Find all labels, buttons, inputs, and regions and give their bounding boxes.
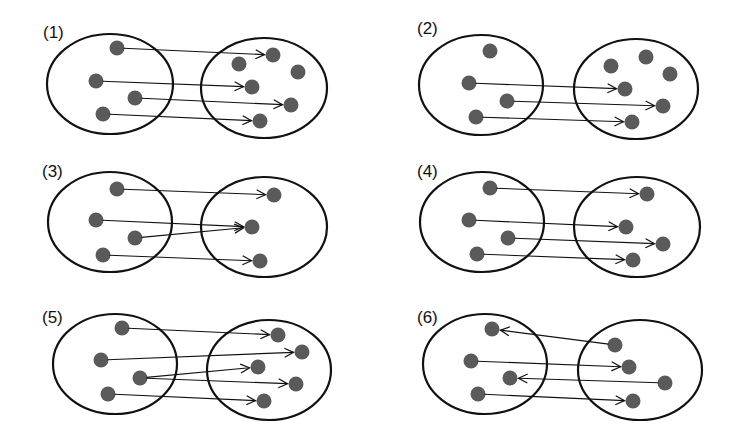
- codomain-element-dot: [253, 114, 268, 129]
- mapping-arrow: [477, 361, 620, 371]
- codomain-element-dot: [622, 360, 637, 375]
- domain-element-dot: [133, 371, 148, 386]
- domain-element-dot: [470, 247, 485, 262]
- codomain-element-dot: [656, 99, 671, 114]
- codomain-element-dot: [232, 57, 247, 72]
- codomain-element-dot: [639, 50, 654, 65]
- mapping-arrow: [482, 117, 623, 126]
- mapping-arrow: [500, 327, 608, 344]
- mapping-panel-6: (6): [417, 308, 702, 420]
- codomain-element-dot: [619, 220, 634, 235]
- codomain-element-dot: [257, 394, 272, 409]
- codomain-element-dot: [245, 80, 260, 95]
- mapping-arrow: [109, 255, 251, 265]
- mapping-panel-4: (4): [417, 162, 700, 277]
- mapping-arrow: [483, 254, 624, 264]
- codomain-element-dot: [291, 65, 306, 80]
- codomain-element-dot: [295, 345, 310, 360]
- mapping-arrow: [123, 189, 265, 199]
- domain-element-dot: [485, 322, 500, 337]
- domain-element-dot: [464, 354, 479, 369]
- domain-element-dot: [110, 182, 125, 197]
- domain-element-dot: [471, 387, 486, 402]
- codomain-element-dot: [626, 253, 641, 268]
- panel-label: (3): [42, 162, 63, 181]
- codomain-element-dot: [245, 220, 260, 235]
- domain-element-dot: [110, 41, 125, 56]
- domain-element-dot: [469, 110, 484, 125]
- mapping-arrow: [109, 114, 251, 124]
- mapping-arrow: [518, 374, 658, 383]
- codomain-element-dot: [604, 59, 619, 74]
- domain-element-dot: [483, 181, 498, 196]
- codomain-element-dot: [663, 67, 678, 82]
- mapping-diagrams-figure: (1)(2)(3)(4)(5)(6): [0, 0, 739, 441]
- panel-label: (5): [42, 308, 63, 327]
- panel-label: (2): [417, 19, 438, 38]
- codomain-element-dot: [267, 188, 282, 203]
- domain-element-dot: [500, 94, 515, 109]
- panel-label: (1): [43, 23, 64, 42]
- domain-element-dot: [483, 44, 498, 59]
- codomain-element-dot: [289, 377, 304, 392]
- codomain-element-dot: [626, 394, 641, 409]
- mapping-arrow: [484, 394, 624, 404]
- mapping-arrow: [114, 394, 255, 404]
- mapping-arrow: [141, 98, 282, 108]
- mapping-arrow: [475, 220, 617, 230]
- domain-element-dot: [96, 248, 111, 263]
- mapping-panel-2: (2): [417, 19, 698, 139]
- codomain-element-dot: [640, 187, 655, 202]
- mapping-arrow: [146, 364, 249, 377]
- mapping-arrow: [107, 348, 293, 360]
- domain-element-dot: [115, 321, 130, 336]
- codomain-element-dot: [271, 328, 286, 343]
- codomain-element-dot: [656, 237, 671, 252]
- domain-element-dot: [89, 213, 104, 228]
- codomain-element-dot: [251, 360, 266, 375]
- domain-element-dot: [101, 387, 116, 402]
- mapping-arrow: [475, 83, 616, 93]
- codomain-element-dot: [618, 82, 633, 97]
- panel-label: (6): [417, 308, 438, 327]
- domain-element-dot: [462, 213, 477, 228]
- codomain-element-dot: [284, 98, 299, 113]
- domain-element-dot: [89, 74, 104, 89]
- codomain-element-dot: [608, 338, 623, 353]
- mapping-arrow: [496, 188, 638, 198]
- domain-element-dot: [128, 91, 143, 106]
- domain-element-dot: [462, 76, 477, 91]
- mapping-panel-5: (5): [42, 308, 331, 420]
- codomain-element-dot: [253, 254, 268, 269]
- domain-element-dot: [96, 107, 111, 122]
- domain-element-dot: [501, 231, 516, 246]
- codomain-element-dot: [658, 376, 673, 391]
- mapping-arrow: [123, 48, 264, 58]
- domain-element-dot: [503, 371, 518, 386]
- domain-element-dot: [94, 353, 109, 368]
- mapping-arrow: [128, 328, 269, 338]
- domain-element-dot: [128, 231, 143, 246]
- mapping-arrow: [146, 378, 287, 388]
- codomain-element-dot: [266, 48, 281, 63]
- mapping-panel-1: (1): [43, 23, 327, 138]
- panel-label: (4): [417, 162, 438, 181]
- mapping-panel-3: (3): [42, 162, 327, 277]
- codomain-element-dot: [625, 115, 640, 130]
- codomain-set-ellipse: [578, 320, 702, 420]
